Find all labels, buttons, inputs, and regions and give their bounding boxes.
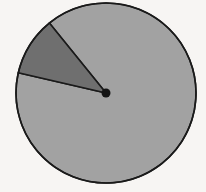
pie-chart-figure [0, 0, 206, 192]
pie-center-marker [102, 89, 111, 98]
pie-chart-canvas [0, 0, 206, 192]
